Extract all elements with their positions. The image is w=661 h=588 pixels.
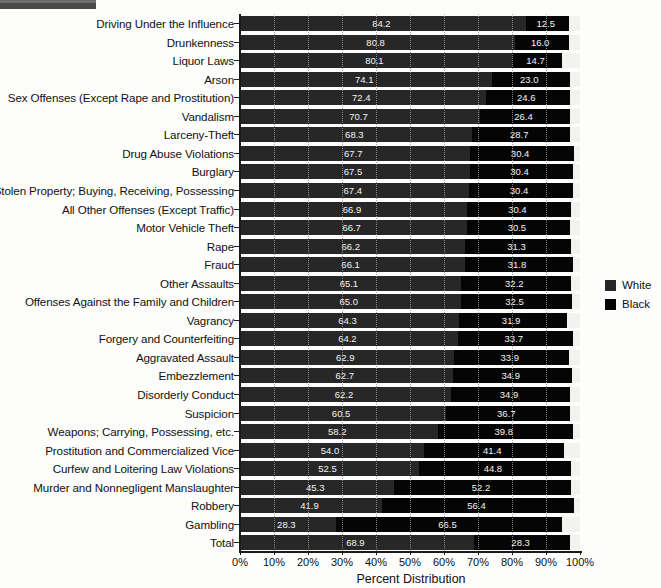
bar-value-black: 44.8 — [484, 461, 503, 476]
x-axis-tick-label: 10% — [263, 556, 285, 568]
gridline — [444, 14, 446, 551]
bar-value-black: 32.5 — [505, 294, 524, 309]
category-label: Weapons; Carrying, Possessing, etc. — [48, 422, 234, 441]
category-label: Gambling — [185, 515, 234, 534]
chart-row: Total68.928.3 — [0, 533, 661, 552]
x-axis-tick — [444, 551, 445, 555]
gridline — [342, 14, 344, 551]
bar-value-black: 52.2 — [472, 480, 491, 495]
category-label: Stolen Property; Buying, Receiving, Poss… — [0, 181, 234, 200]
bar-value-white: 64.2 — [338, 331, 357, 346]
chart-row: Liquor Laws80.114.7 — [0, 51, 661, 70]
x-axis-tick-label: 70% — [467, 556, 489, 568]
chart-row: Forgery and Counterfeiting64.233.7 — [0, 329, 661, 348]
bar-value-black: 34.9 — [500, 387, 519, 402]
x-axis-tick — [308, 551, 309, 555]
gridline — [376, 14, 378, 551]
x-axis-tick — [376, 551, 377, 555]
chart-row: Drug Abuse Violations67.730.4 — [0, 144, 661, 163]
x-axis-tick-label: 20% — [297, 556, 319, 568]
stacked-bar-chart: Driving Under the Influence84.212.5Drunk… — [0, 0, 661, 588]
category-label: Arson — [204, 70, 234, 89]
legend-swatch-icon — [604, 279, 617, 292]
x-axis-tick-label: 60% — [433, 556, 455, 568]
gridline — [546, 14, 548, 551]
x-axis-tick — [546, 551, 547, 555]
category-label: Embezzlement — [159, 366, 234, 385]
chart-row: Larceny-Theft68.328.7 — [0, 125, 661, 144]
bar-value-white: 62.9 — [336, 350, 355, 365]
category-label: Forgery and Counterfeiting — [99, 329, 234, 348]
x-axis-tick-label: 100% — [566, 556, 594, 568]
bar-value-black: 30.5 — [508, 220, 527, 235]
bar-value-white: 67.5 — [344, 164, 363, 179]
bar-value-white: 68.9 — [346, 535, 365, 550]
bar-value-black: 33.9 — [500, 350, 519, 365]
category-label: Larceny-Theft — [164, 125, 234, 144]
bar-value-white: 66.9 — [343, 202, 362, 217]
x-axis-tick-label: 0% — [232, 556, 248, 568]
bar-value-black: 24.6 — [517, 90, 536, 105]
bar-value-white: 67.4 — [344, 183, 363, 198]
chart-row: Stolen Property; Buying, Receiving, Poss… — [0, 181, 661, 200]
x-axis-tick-label: 30% — [331, 556, 353, 568]
chart-row: Rape66.231.3 — [0, 237, 661, 256]
bar-value-black: 39.8 — [495, 424, 514, 439]
category-label: Disorderly Conduct — [137, 385, 234, 404]
chart-row: Disorderly Conduct62.234.9 — [0, 385, 661, 404]
legend-swatch-icon — [604, 298, 617, 311]
chart-row: Aggravated Assault62.933.9 — [0, 348, 661, 367]
chart-row: Gambling28.366.5 — [0, 515, 661, 534]
gridline — [274, 14, 276, 551]
x-axis-title: Percent Distribution — [240, 572, 582, 586]
bar-value-white: 62.7 — [336, 368, 355, 383]
category-label: Vandalism — [182, 107, 234, 126]
chart-row: Burglary67.530.4 — [0, 162, 661, 181]
category-label: Drunkenness — [167, 33, 234, 52]
bar-value-black: 30.4 — [508, 202, 527, 217]
category-label: Curfew and Loitering Law Violations — [53, 459, 234, 478]
gridline — [478, 14, 480, 551]
x-axis-tick — [410, 551, 411, 555]
bar-value-black: 23.0 — [520, 72, 539, 87]
category-label: Rape — [207, 237, 234, 256]
y-axis-line — [239, 14, 241, 552]
chart-row: Vagrancy64.331.9 — [0, 311, 661, 330]
category-label: Total — [210, 533, 234, 552]
category-label: Murder and Nonnegligent Manslaughter — [33, 478, 234, 497]
chart-row: Motor Vehicle Theft66.730.5 — [0, 218, 661, 237]
legend-label: Black — [622, 296, 650, 312]
category-label: Motor Vehicle Theft — [136, 218, 234, 237]
bar-value-white: 66.7 — [342, 220, 361, 235]
x-axis-tick — [512, 551, 513, 555]
x-axis-tick-label: 80% — [501, 556, 523, 568]
chart-row: Weapons; Carrying, Possessing, etc.58.23… — [0, 422, 661, 441]
x-axis-tick — [240, 551, 241, 555]
category-label: Aggravated Assault — [136, 348, 234, 367]
chart-row: All Other Offenses (Except Traffic)66.93… — [0, 200, 661, 219]
chart-row: Embezzlement62.734.9 — [0, 366, 661, 385]
chart-row: Offenses Against the Family and Children… — [0, 292, 661, 311]
bar-value-white: 70.7 — [349, 109, 368, 124]
bar-value-black: 32.2 — [505, 276, 524, 291]
bar-value-black: 31.8 — [508, 257, 527, 272]
x-axis-tick — [580, 551, 581, 555]
category-label: Driving Under the Influence — [96, 14, 234, 33]
category-label: All Other Offenses (Except Traffic) — [62, 200, 234, 219]
bar-value-white: 72.4 — [352, 90, 371, 105]
chart-row: Murder and Nonnegligent Manslaughter45.3… — [0, 478, 661, 497]
chart-row: Sex Offenses (Except Rape and Prostituti… — [0, 88, 661, 107]
bar-value-white: 68.3 — [345, 127, 364, 142]
bar-value-black: 41.4 — [483, 443, 502, 458]
chart-page: Driving Under the Influence84.212.5Drunk… — [0, 0, 661, 588]
gridline — [410, 14, 412, 551]
chart-row: Other Assaults65.132.2 — [0, 274, 661, 293]
chart-row: Curfew and Loitering Law Violations52.54… — [0, 459, 661, 478]
x-axis-tick — [274, 551, 275, 555]
bar-value-black: 14.7 — [526, 53, 545, 68]
x-axis-tick-label: 50% — [399, 556, 421, 568]
category-label: Vagrancy — [187, 311, 234, 330]
chart-row: Vandalism70.726.4 — [0, 107, 661, 126]
chart-row: Prostitution and Commercialized Vice54.0… — [0, 441, 661, 460]
bar-value-white: 54.0 — [321, 443, 340, 458]
